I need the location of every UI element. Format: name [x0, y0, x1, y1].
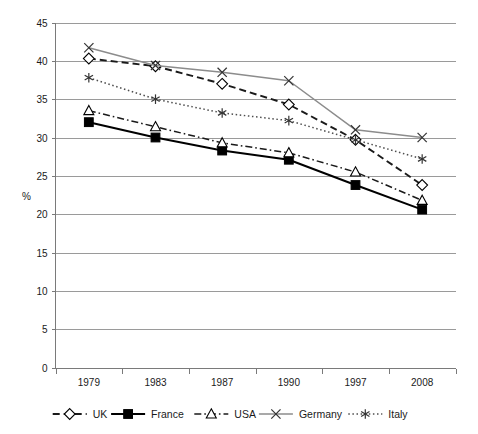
- x-tick-label-1987: 1987: [211, 377, 234, 388]
- data-point-marker-open-diamond: [217, 78, 228, 89]
- series-germany: [84, 43, 427, 142]
- y-tick-label: 10: [36, 286, 48, 297]
- x-axis: 197919831987199019972008: [57, 369, 457, 388]
- gridlines-group: [56, 24, 456, 330]
- data-point-marker-asterisk: [418, 154, 426, 164]
- legend-item-italy[interactable]: Italy: [348, 408, 408, 420]
- data-point-marker-filled-square: [151, 133, 160, 142]
- legend-item-france[interactable]: France: [111, 408, 184, 420]
- data-point-marker-open-triangle: [84, 105, 94, 114]
- data-point-marker-open-diamond: [283, 99, 294, 110]
- data-point-marker-open-diamond: [417, 180, 428, 191]
- legend-label: USA: [234, 408, 256, 420]
- x-tick-label-1997: 1997: [344, 377, 367, 388]
- y-tick-label: 15: [36, 248, 48, 259]
- data-point-marker-asterisk: [85, 73, 93, 83]
- series-line-france: [89, 122, 422, 209]
- data-point-marker-filled-square: [351, 181, 360, 190]
- series-italy: [85, 73, 427, 164]
- y-tick-label: 0: [42, 363, 48, 374]
- data-point-marker-open-triangle: [417, 195, 427, 204]
- legend-label: France: [151, 408, 184, 420]
- data-point-marker-asterisk: [218, 108, 226, 118]
- chart-canvas: 051015202530354045 197919831987199019972…: [0, 0, 478, 434]
- series-group: [83, 43, 427, 214]
- data-point-marker-open-diamond: [83, 53, 94, 64]
- data-point-marker-open-triangle: [351, 167, 361, 176]
- legend-label: Italy: [388, 408, 408, 420]
- x-tick-label-1979: 1979: [78, 377, 101, 388]
- x-tick-label-1983: 1983: [144, 377, 167, 388]
- y-axis-title-group: %: [22, 191, 31, 202]
- data-point-marker-asterisk: [361, 409, 369, 419]
- chart-legend: UKFranceUSAGermanyItaly: [53, 408, 409, 420]
- series-line-uk: [89, 59, 422, 186]
- line-chart: 051015202530354045 197919831987199019972…: [0, 0, 478, 434]
- data-point-marker-open-diamond: [64, 409, 75, 420]
- data-point-marker-filled-square: [218, 146, 227, 155]
- y-tick-label: 45: [36, 18, 48, 29]
- legend-label: Germany: [299, 408, 343, 420]
- data-point-marker-cross-x: [84, 43, 93, 52]
- legend-item-usa[interactable]: USA: [194, 408, 256, 420]
- x-tick-label-2008: 2008: [411, 377, 434, 388]
- series-line-italy: [89, 78, 422, 159]
- y-axis-title: %: [22, 191, 31, 202]
- legend-label: UK: [93, 408, 108, 420]
- y-tick-label: 5: [42, 324, 48, 335]
- y-tick-label: 35: [36, 94, 48, 105]
- y-tick-label: 25: [36, 171, 48, 182]
- x-tick-label-1990: 1990: [278, 377, 301, 388]
- y-axis: 051015202530354045: [36, 18, 455, 374]
- y-tick-label: 40: [36, 56, 48, 67]
- y-tick-label: 20: [36, 209, 48, 220]
- data-point-marker-filled-square: [418, 205, 427, 214]
- y-tick-label: 30: [36, 133, 48, 144]
- legend-item-germany[interactable]: Germany: [259, 408, 343, 420]
- legend-item-uk[interactable]: UK: [53, 408, 108, 420]
- data-point-marker-filled-square: [124, 410, 133, 419]
- data-point-marker-filled-square: [84, 118, 93, 127]
